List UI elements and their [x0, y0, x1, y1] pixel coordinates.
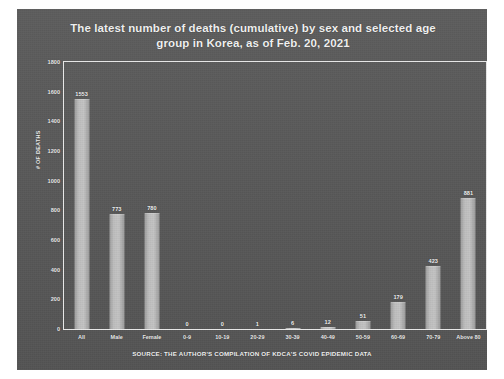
bar[interactable] [355, 321, 370, 329]
x-axis-category-label: 30-39 [286, 334, 300, 340]
bar-value-label: 6 [291, 320, 294, 326]
bar-value-label: 1 [256, 321, 259, 327]
bar-group: 881Above 80 [451, 62, 486, 329]
x-axis-category-label: 0-9 [183, 334, 191, 340]
bar-group: 780Female [134, 62, 169, 329]
bar-value-label: 773 [112, 206, 121, 212]
bar-value-label: 1553 [75, 91, 87, 97]
bar[interactable] [391, 302, 406, 329]
bar[interactable] [144, 213, 159, 329]
y-axis-tick-label: 1800 [48, 59, 60, 65]
y-axis-tick-label: 600 [51, 237, 60, 243]
bar-group: 773Male [99, 62, 134, 329]
bar[interactable] [285, 328, 300, 329]
bar-group: 1240-49 [310, 62, 345, 329]
x-axis-category-label: 70-79 [426, 334, 440, 340]
x-axis-category-label: 20-29 [250, 334, 264, 340]
bar-group: 630-39 [275, 62, 310, 329]
y-axis-tick-label: 1400 [48, 118, 60, 124]
bar[interactable] [461, 198, 476, 329]
bar-value-label: 0 [186, 321, 189, 327]
bar-value-label: 423 [429, 258, 438, 264]
y-axis-tick-label: 1000 [48, 178, 60, 184]
bar-group: 1553All [64, 62, 99, 329]
y-axis-tick-label: 800 [51, 207, 60, 213]
bar-value-label: 179 [393, 294, 402, 300]
bar-group: 00-9 [170, 62, 205, 329]
bar-group: 010-19 [205, 62, 240, 329]
bar-value-label: 51 [360, 313, 366, 319]
bar-value-label: 881 [464, 190, 473, 196]
chart-title-line-1: The latest number of deaths (cumulative)… [53, 21, 453, 36]
bar-group: 17960-69 [381, 62, 416, 329]
plot-area: 020040060080010001200140016001800 1553Al… [64, 62, 486, 329]
y-axis-tick-label: 400 [51, 267, 60, 273]
bar-group: 5150-59 [345, 62, 380, 329]
x-axis-category-label: 60-69 [391, 334, 405, 340]
chart-title: The latest number of deaths (cumulative)… [53, 21, 453, 51]
bar[interactable] [74, 99, 89, 329]
x-axis-category-label: Female [142, 334, 161, 340]
y-axis-title: # OF DEATHS [35, 130, 41, 169]
bar[interactable] [426, 266, 441, 329]
bar-group: 42370-79 [416, 62, 451, 329]
y-axis-tick-label: 0 [57, 326, 60, 332]
x-axis-category-label: 40-49 [321, 334, 335, 340]
bar[interactable] [320, 327, 335, 329]
y-axis-tick-label: 200 [51, 296, 60, 302]
bar-group: 120-29 [240, 62, 275, 329]
x-axis-category-label: Male [111, 334, 123, 340]
chart-panel: The latest number of deaths (cumulative)… [17, 9, 487, 370]
x-axis-category-label: Above 80 [456, 334, 480, 340]
bar-value-label: 0 [221, 321, 224, 327]
x-axis-category-label: All [78, 334, 85, 340]
y-axis-tick-label: 1200 [48, 148, 60, 154]
chart-title-line-2: group in Korea, as of Feb. 20, 2021 [53, 36, 453, 51]
x-axis-category-label: 50-59 [356, 334, 370, 340]
source-note: SOURCE: THE AUTHOR'S COMPILATION OF KDCA… [17, 350, 487, 357]
bar[interactable] [109, 214, 124, 329]
bar-value-label: 780 [147, 205, 156, 211]
x-axis-category-label: 10-19 [215, 334, 229, 340]
y-axis-tick-label: 1600 [48, 89, 60, 95]
chart-figure: The latest number of deaths (cumulative)… [0, 0, 504, 379]
bar-value-label: 12 [325, 319, 331, 325]
